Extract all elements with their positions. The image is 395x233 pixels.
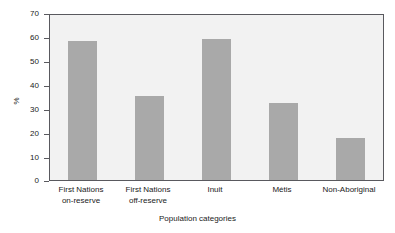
y-tick-label-50: 50 xyxy=(0,58,39,66)
bar-chart-figure: % 70 60 50 40 30 20 10 0 First Nations o… xyxy=(0,0,395,233)
y-tick-label-60: 60 xyxy=(0,34,39,42)
bar-metis xyxy=(269,103,298,180)
x-tick-line1: First Nations xyxy=(126,185,171,194)
x-tick-line1: Inuit xyxy=(207,185,222,194)
plot-area xyxy=(49,14,384,181)
x-tick-line1: Non-Aboriginal xyxy=(323,185,376,194)
y-tick-label-70: 70 xyxy=(0,10,39,18)
bar-non-aboriginal xyxy=(336,138,365,180)
bar-inuit xyxy=(202,39,231,180)
y-tick-label-10: 10 xyxy=(0,154,39,162)
x-tick-label-non-aboriginal: Non-Aboriginal xyxy=(304,185,394,196)
bar-first-nations-on-reserve xyxy=(68,41,97,180)
x-tick-line1: Métis xyxy=(272,185,291,194)
bar-first-nations-off-reserve xyxy=(135,96,164,180)
x-tick-line1: First Nations xyxy=(59,185,104,194)
y-tick-label-30: 30 xyxy=(0,106,39,114)
y-tick-label-40: 40 xyxy=(0,82,39,90)
bars-layer xyxy=(50,15,383,180)
y-tick-mark-0 xyxy=(44,181,49,182)
x-axis-title: Population categories xyxy=(0,214,395,223)
y-tick-label-20: 20 xyxy=(0,130,39,138)
x-tick-line2: off-reserve xyxy=(103,196,193,207)
y-tick-label-0: 0 xyxy=(0,177,39,185)
